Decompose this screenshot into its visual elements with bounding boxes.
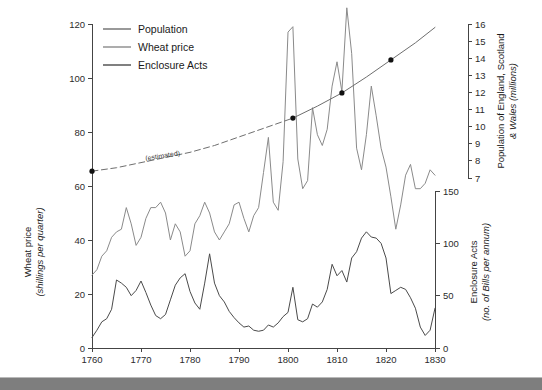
- population-census-point: [388, 57, 393, 62]
- y-right-population-tick-label: 10: [475, 121, 486, 132]
- x-axis-tick-label: 1780: [179, 354, 200, 365]
- series-line-population-dashed: [92, 118, 293, 171]
- y-left-tick-label: 20: [74, 289, 85, 300]
- x-axis-tick-label: 1760: [81, 354, 102, 365]
- y-left-tick-label: 40: [74, 235, 85, 246]
- legend-entry[interactable]: Enclosure Acts: [103, 59, 207, 71]
- y-left-tick-label: 100: [69, 73, 85, 84]
- y-right-population-tick-label: 8: [475, 155, 480, 166]
- x-axis-tick-label: 1830: [424, 354, 445, 365]
- legend-entry[interactable]: Population: [103, 23, 188, 35]
- x-axis-tick-label: 1770: [130, 354, 151, 365]
- y-right-population-tick-label: 16: [475, 19, 486, 30]
- y-left-axis-title-line1: Wheat price: [22, 227, 33, 278]
- x-axis-tick-label: 1820: [375, 354, 396, 365]
- y-right-population-title-line1: Population of England, Scotland: [495, 33, 506, 168]
- y-left-tick-label: 60: [74, 181, 85, 192]
- y-left-axis-title-line2: (shillings per quarter): [34, 207, 45, 296]
- y-right-enclosure-tick-label: 150: [443, 186, 459, 197]
- population-census-point: [339, 90, 344, 95]
- x-axis-tick-label: 1790: [228, 354, 249, 365]
- bottom-status-bar: [0, 377, 542, 390]
- y-left-tick-label: 120: [69, 19, 85, 30]
- y-right-population-tick-label: 7: [475, 173, 480, 184]
- y-right-population-tick-label: 11: [475, 104, 485, 115]
- y-left-tick-label: 0: [80, 343, 85, 354]
- y-right-enclosure-title-line1: Enclosure Acts: [468, 240, 479, 303]
- estimated-annotation: (estimated): [145, 149, 181, 162]
- legend-label: Wheat price: [138, 41, 194, 53]
- x-axis-tick-label: 1800: [277, 354, 298, 365]
- y-right-enclosure-tick-label: 0: [443, 343, 448, 354]
- y-right-enclosure-title-line2: (no. of Bills per annum): [480, 223, 491, 321]
- legend-label: Population: [138, 23, 188, 35]
- y-right-population-tick-label: 15: [475, 36, 486, 47]
- y-left-tick-label: 80: [74, 127, 85, 138]
- y-right-enclosure-tick-label: 100: [443, 238, 459, 249]
- y-right-population-tick-label: 14: [475, 53, 486, 64]
- legend-entry[interactable]: Wheat price: [103, 41, 194, 53]
- y-right-enclosure-tick-label: 50: [443, 290, 454, 301]
- series-line-enclosure-acts: [92, 232, 435, 338]
- legend-label: Enclosure Acts: [138, 59, 207, 71]
- series-line-population-solid: [293, 27, 435, 118]
- population-census-point: [89, 169, 94, 174]
- y-right-population-tick-label: 13: [475, 70, 486, 81]
- population-census-point: [290, 116, 295, 121]
- y-right-population-tick-label: 12: [475, 87, 486, 98]
- x-axis-tick-label: 1810: [326, 354, 347, 365]
- y-right-population-tick-label: 9: [475, 138, 480, 149]
- y-right-population-title-line2: & Wales (millions): [507, 63, 518, 139]
